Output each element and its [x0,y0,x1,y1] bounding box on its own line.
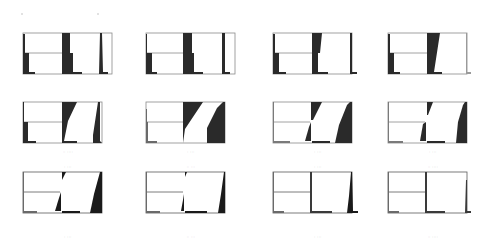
panel-caption: · ··· [272,165,364,169]
panel-caption: · ··· [272,235,364,239]
marker-dot [97,13,99,15]
image-panel-r3c3 [272,170,364,216]
marker-dot [21,13,23,15]
image-panel-r1c4 [387,31,479,77]
image-panel-r3c2 [145,170,237,216]
panel-caption: ·· ··· [145,235,237,239]
image-panel-r3c4 [387,170,479,216]
image-panel-r1c3 [272,31,364,77]
panel-caption: · ··· [387,150,479,154]
panel-caption: ·· ··· [145,165,237,169]
image-panel-r2c3 [272,100,364,146]
panel-caption: · ··· [22,235,114,239]
panel-caption: ·· ···· [22,150,114,154]
panel-caption: ·· ···· [387,235,479,239]
panel-caption: · ··· [272,150,364,154]
image-panel-r2c1 [22,100,114,146]
image-panel-r1c2 [145,31,237,77]
image-panel-r2c2 [145,100,237,146]
image-panel-r1c1 [22,31,114,77]
panel-caption: · ··· [22,165,114,169]
panel-caption: · ··· [145,150,237,154]
panel-caption: ·· ···· [387,165,479,169]
image-panel-r2c4 [387,100,479,146]
image-panel-r3c1 [22,170,114,216]
